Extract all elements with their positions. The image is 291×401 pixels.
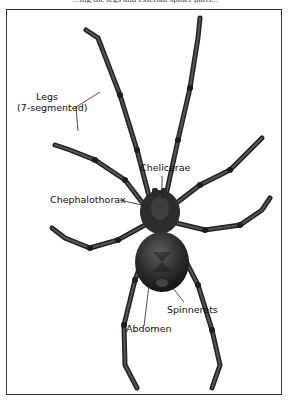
label-chelicerae: Chelicerae — [140, 162, 190, 173]
label-legs: Legs (7-segmented) — [17, 91, 77, 113]
label-abdomen: Abdomen — [126, 323, 172, 334]
label-legs-line1: Legs — [17, 91, 77, 102]
label-cephalothorax: Chephalothorax — [50, 194, 126, 205]
label-legs-line2: (7-segmented) — [17, 102, 77, 113]
spider-illustration — [0, 0, 291, 401]
label-spinnerets: Spinnerets — [167, 304, 218, 315]
